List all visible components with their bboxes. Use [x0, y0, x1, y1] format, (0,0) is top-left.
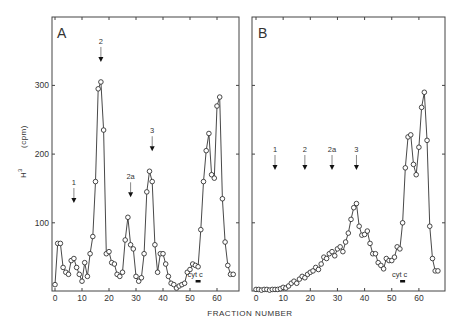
arrow-down-icon — [71, 198, 76, 203]
fraction-marker-label: 1 — [273, 145, 277, 154]
panel-a: A 0102030405060100200300 122a3cyt c — [35, 17, 239, 303]
data-point — [80, 279, 85, 284]
data-point — [58, 241, 63, 246]
y-axis-title: H 3 (cpm) — [17, 125, 28, 178]
data-point — [199, 227, 204, 232]
data-point — [93, 179, 98, 184]
data-point — [436, 269, 441, 274]
data-point — [72, 256, 77, 261]
arrow-down-icon — [302, 165, 307, 170]
data-point — [201, 179, 206, 184]
x-tick-label: 40 — [360, 293, 370, 303]
data-point — [61, 265, 66, 270]
data-point — [85, 274, 90, 279]
x-tick-label: 10 — [278, 293, 288, 303]
data-point — [346, 231, 351, 236]
data-point — [142, 251, 147, 256]
data-point — [153, 242, 158, 247]
data-point — [123, 238, 128, 243]
data-point — [332, 253, 337, 258]
data-point — [354, 201, 359, 206]
arrow-down-icon — [98, 57, 103, 62]
data-point — [365, 229, 370, 234]
x-tick-label: 10 — [77, 293, 87, 303]
data-point — [155, 270, 160, 275]
x-tick-label: 50 — [387, 293, 397, 303]
y-axis-title-unit: (cpm) — [19, 125, 28, 148]
data-point — [319, 262, 324, 267]
data-point — [341, 249, 346, 254]
panel-a-label: A — [57, 25, 67, 41]
data-point — [91, 234, 96, 239]
data-point — [316, 267, 321, 272]
data-point — [338, 245, 343, 250]
x-tick-label: 30 — [333, 293, 343, 303]
data-point — [182, 281, 187, 286]
data-point — [207, 131, 212, 136]
fraction-marker-label: 2a — [328, 145, 337, 154]
data-point — [373, 251, 378, 256]
arrow-down-icon — [150, 146, 155, 151]
data-point — [66, 272, 71, 277]
data-point — [53, 282, 58, 287]
data-point — [74, 265, 79, 270]
panel-b: B 0102030405060 122a3cyt c — [252, 17, 445, 303]
data-point — [411, 162, 416, 167]
data-point — [381, 267, 386, 272]
y-axis-title-sup: 3 — [17, 168, 23, 172]
data-point — [161, 251, 166, 256]
x-axis-title: FRACTION NUMBER — [207, 309, 292, 318]
panel-b-label: B — [258, 25, 267, 41]
data-point — [112, 262, 117, 267]
data-point — [430, 256, 435, 261]
data-point — [417, 145, 422, 150]
data-point — [368, 241, 373, 246]
data-point — [217, 95, 222, 100]
panel-b-frame — [252, 17, 445, 291]
panel-b-series — [254, 90, 441, 292]
cyt-c-bar-icon — [196, 280, 201, 283]
data-point — [408, 133, 413, 138]
data-point — [220, 196, 225, 201]
y-tick-label: 300 — [35, 80, 49, 90]
panel-a-series — [53, 80, 236, 291]
arrow-down-icon — [354, 165, 359, 170]
y-tick-label: 200 — [35, 149, 49, 159]
data-point — [343, 240, 348, 245]
fraction-marker-label: 2 — [303, 145, 307, 154]
data-point — [120, 270, 125, 275]
data-point — [422, 90, 427, 95]
x-tick-label: 30 — [131, 293, 141, 303]
fraction-marker-label: 2a — [126, 172, 135, 181]
data-point — [392, 255, 397, 260]
data-point — [231, 272, 236, 277]
series-line — [55, 82, 233, 288]
data-point — [101, 128, 106, 133]
x-tick-label: 60 — [212, 293, 222, 303]
panel-a-frame — [52, 17, 239, 291]
data-point — [145, 190, 150, 195]
x-tick-label: 0 — [254, 293, 259, 303]
data-point — [324, 256, 329, 261]
data-point — [357, 224, 362, 229]
data-point — [163, 262, 168, 267]
x-tick-label: 0 — [53, 293, 58, 303]
panel-b-axes: 0102030405060 — [252, 17, 445, 303]
data-point — [398, 247, 403, 252]
series-line — [256, 92, 438, 290]
data-point — [126, 215, 131, 220]
x-tick-label: 20 — [104, 293, 114, 303]
data-point — [147, 169, 152, 174]
data-point — [349, 217, 354, 222]
fraction-marker-label: 1 — [72, 178, 76, 187]
data-point — [96, 87, 101, 92]
x-tick-label: 40 — [158, 293, 168, 303]
y-tick-label: 100 — [35, 218, 49, 228]
data-point — [166, 274, 171, 279]
data-point — [204, 148, 209, 153]
arrow-down-icon — [273, 165, 278, 170]
data-point — [226, 263, 231, 268]
data-point — [82, 260, 87, 265]
panel-a-axes: 0102030405060100200300 — [35, 17, 239, 303]
data-point — [150, 179, 155, 184]
